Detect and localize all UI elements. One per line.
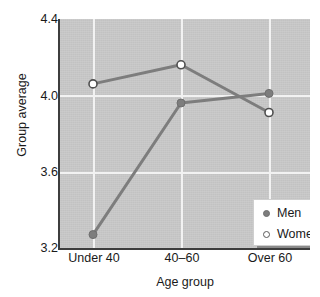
x-tick-label: 40–60 (165, 252, 200, 265)
open-circle-icon (263, 231, 270, 238)
legend-label-women: Women (277, 228, 310, 241)
data-point-women (177, 61, 185, 69)
data-point-men (177, 99, 185, 107)
chart-legend: Men Women (253, 199, 310, 246)
y-tick-label: 4.4 (6, 13, 58, 26)
data-point-men (265, 89, 273, 97)
y-tick-label: 4.0 (6, 90, 58, 103)
data-point-women (265, 109, 273, 117)
data-point-men (89, 231, 97, 239)
legend-label-men: Men (277, 207, 301, 220)
x-axis-ticks: Under 40 40–60 Over 60 (0, 252, 320, 272)
x-axis-title: Age group (60, 275, 310, 289)
y-axis-line (58, 19, 60, 250)
markers-women (89, 61, 273, 117)
x-tick-label: Over 60 (248, 252, 292, 265)
markers-men (89, 89, 273, 238)
plot-area: Men Women (60, 19, 310, 248)
legend-item-men: Men (254, 203, 310, 224)
x-axis-line (58, 248, 310, 250)
line-men (93, 93, 269, 234)
x-tick-label: Under 40 (68, 252, 119, 265)
filled-circle-icon (263, 210, 270, 217)
legend-item-women: Women (254, 224, 310, 245)
chart-figure: Group average 4.4 4.0 3.6 3.2 Men (0, 0, 320, 297)
data-point-women (89, 80, 97, 88)
y-tick-label: 3.6 (6, 166, 58, 179)
